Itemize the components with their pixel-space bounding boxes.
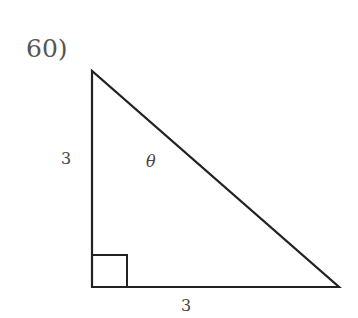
right-triangle-diagram: 3 θ 3 bbox=[0, 0, 358, 318]
triangle bbox=[92, 71, 339, 287]
angle-theta-label: θ bbox=[146, 152, 156, 171]
bottom-side-label: 3 bbox=[181, 296, 191, 315]
left-side-label: 3 bbox=[61, 149, 71, 168]
right-angle-marker bbox=[92, 255, 127, 287]
